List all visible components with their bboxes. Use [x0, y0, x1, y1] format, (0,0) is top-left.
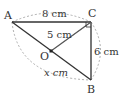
- label-c: C: [88, 7, 96, 20]
- label-a: A: [3, 9, 13, 22]
- length-oc: 5 cm: [47, 29, 72, 40]
- length-cb: 6 cm: [94, 46, 119, 57]
- label-b: B: [87, 83, 95, 96]
- length-ac: 8 cm: [42, 8, 67, 19]
- point-o-marker: [50, 50, 53, 53]
- label-o: O: [40, 50, 49, 63]
- triangle-diagram: A C B O 8 cm 5 cm 6 cm x cm: [0, 0, 127, 101]
- length-ab: x cm: [44, 67, 68, 78]
